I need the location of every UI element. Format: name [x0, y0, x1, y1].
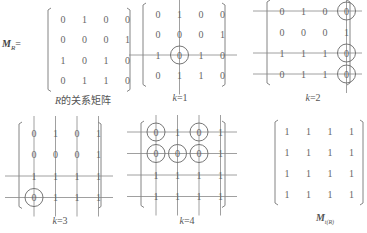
matrix-cell: 0 — [61, 14, 66, 25]
matrix-cell: 1 — [349, 168, 354, 179]
caption-MtR: Mt(R) — [300, 212, 350, 225]
matrix-cell: 1 — [328, 189, 333, 200]
matrix-cell: 0 — [104, 34, 109, 45]
matrix-cell: 1 — [75, 192, 80, 203]
matrix-cell: 1 — [82, 14, 87, 25]
matrix-cell: 0 — [61, 75, 66, 86]
matrix-cell: 1 — [301, 48, 306, 59]
caption-text: =4 — [184, 215, 195, 226]
matrix-cell: 0 — [280, 27, 285, 38]
matrix-cell: 1 — [177, 9, 182, 20]
matrix-tR: 1111111111111111 — [275, 120, 363, 205]
warshall-figure: 0100000110100110010000011010011001000001… — [0, 0, 367, 233]
matrix-cell: 0 — [344, 48, 349, 59]
matrix-cell: 0 — [344, 6, 349, 17]
caption-k1: k=1 — [155, 92, 205, 103]
matrix-cell: 1 — [349, 126, 354, 137]
caption-text: =3 — [57, 215, 68, 226]
matrix-cell: 1 — [104, 75, 109, 86]
matrix-cell: 1 — [199, 50, 204, 61]
matrix-cell: 1 — [285, 126, 290, 137]
matrix-cell: 0 — [197, 148, 202, 159]
matrix-cell: 0 — [280, 6, 285, 17]
matrix-cell: 1 — [306, 147, 311, 158]
matrix-k4: 0101000111111111 — [127, 115, 237, 216]
left-bracket — [267, 0, 270, 85]
matrix-cell: 1 — [197, 170, 202, 181]
matrix-cell: 1 — [96, 149, 101, 160]
caption-text: =1 — [177, 92, 188, 103]
matrix-cell: 1 — [323, 48, 328, 59]
left-bracket — [48, 8, 51, 92]
matrix-cell: 0 — [75, 128, 80, 139]
matrix-cell: 1 — [154, 191, 159, 202]
matrix-cell: 0 — [177, 50, 182, 61]
matrix-cell: 0 — [156, 29, 161, 40]
matrix-cell: 0 — [32, 149, 37, 160]
matrix-cell: 0 — [197, 127, 202, 138]
matrix-k1: 0100000110100110 — [129, 0, 237, 95]
matrix-cell: 1 — [328, 126, 333, 137]
matrix-cell: 1 — [301, 69, 306, 80]
matrix-cell: 0 — [154, 148, 159, 159]
caption-R: R的关系矩阵 — [38, 92, 128, 107]
matrix-cell: 0 — [323, 27, 328, 38]
matrix-cell: 0 — [175, 148, 180, 159]
matrix-cell: 1 — [218, 170, 223, 181]
matrix-cell: 0 — [125, 55, 130, 66]
matrix-cell: 1 — [218, 191, 223, 202]
matrix-cell: 1 — [285, 147, 290, 158]
left-bracket — [19, 122, 22, 209]
matrix-cell: 1 — [53, 192, 58, 203]
matrix-cell: 1 — [96, 128, 101, 139]
matrix-cell: 1 — [285, 168, 290, 179]
matrix-cell: 1 — [344, 27, 349, 38]
caption-text: 的关系矩阵 — [61, 95, 111, 106]
caption-k2: k=2 — [288, 92, 338, 103]
caption-subscript: t(R) — [325, 219, 334, 225]
matrix-cell: 0 — [156, 70, 161, 81]
matrix-cell: 0 — [177, 29, 182, 40]
caption-text: =2 — [310, 92, 321, 103]
caption-k3: k=3 — [35, 215, 85, 226]
matrix-cell: 0 — [104, 14, 109, 25]
matrix-cell: 1 — [280, 48, 285, 59]
matrix-cell: 1 — [328, 168, 333, 179]
matrix-cell: 1 — [306, 126, 311, 137]
matrix-R: 0100000110100110 — [48, 8, 130, 92]
matrix-cell: 1 — [323, 69, 328, 80]
matrix-cell: 0 — [220, 50, 225, 61]
matrix-cell: 1 — [53, 128, 58, 139]
matrix-cell: 1 — [306, 168, 311, 179]
matrix-cell: 1 — [328, 147, 333, 158]
matrix-label-MR: MR= — [2, 38, 21, 52]
matrix-cell: 1 — [82, 75, 87, 86]
caption-symbol: M — [316, 212, 325, 223]
matrix-cell: 1 — [349, 189, 354, 200]
matrix-cell: 0 — [301, 27, 306, 38]
matrix-cell: 1 — [53, 171, 58, 182]
matrix-cell: 1 — [175, 127, 180, 138]
matrix-cell: 1 — [349, 147, 354, 158]
matrix-cell: 0 — [154, 127, 159, 138]
matrix-cell: 1 — [154, 170, 159, 181]
matrix-cell: 1 — [104, 55, 109, 66]
matrix-cell: 0 — [53, 149, 58, 160]
matrix-cell: 0 — [220, 70, 225, 81]
matrix-cell: 1 — [301, 6, 306, 17]
equals-sign: = — [15, 38, 21, 49]
matrix-k3: 0101000111110111 — [5, 116, 113, 217]
matrix-cell: 0 — [32, 128, 37, 139]
matrix-cell: 1 — [61, 55, 66, 66]
matrix-symbol: M — [2, 38, 11, 49]
matrix-cell: 1 — [199, 70, 204, 81]
matrix-cell: 1 — [177, 70, 182, 81]
matrix-cell: 0 — [220, 9, 225, 20]
matrix-cell: 1 — [175, 170, 180, 181]
matrix-cell: 1 — [285, 189, 290, 200]
matrix-cell: 1 — [96, 171, 101, 182]
matrix-cell: 0 — [156, 9, 161, 20]
matrix-cell: 1 — [197, 191, 202, 202]
right-bracket — [360, 120, 363, 205]
matrix-cell: 1 — [32, 171, 37, 182]
